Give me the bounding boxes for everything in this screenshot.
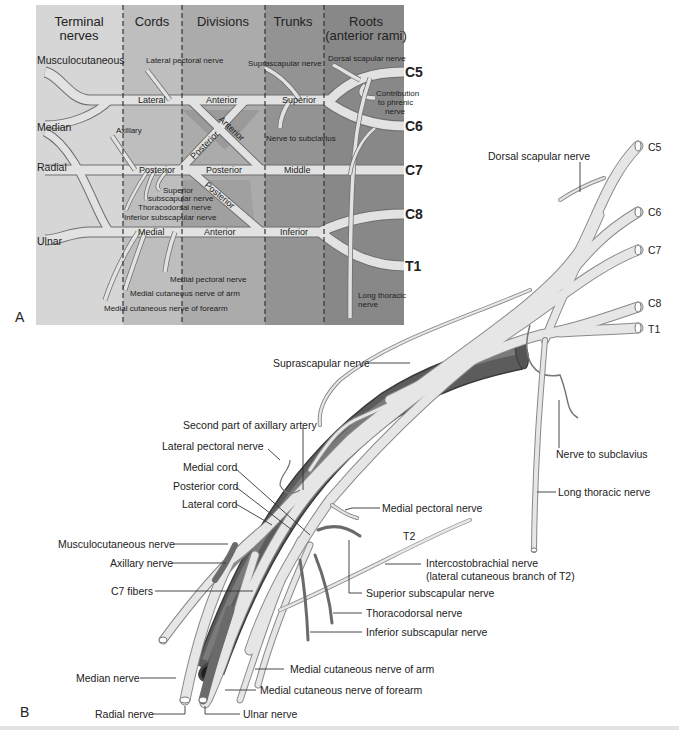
label-b-t2: T2 [403, 530, 415, 542]
label-b-c7-fibers: C7 fibers [111, 585, 153, 597]
label-root-c8: C8 [405, 206, 423, 222]
label-b-nerve-to-subclavius: Nerve to subclavius [556, 448, 648, 460]
label-root-c5: C5 [405, 64, 423, 80]
label-phrenic-2: to phrenic [378, 98, 413, 107]
label-medial-pectoral: Medial pectoral nerve [170, 275, 247, 284]
label-ulnar: Ulnar [37, 235, 63, 247]
column-header-divisions: Divisions [197, 14, 250, 29]
label-medial-cutaneous-arm: Medial cutaneous nerve of arm [130, 289, 240, 298]
label-b-medial-cord: Medial cord [183, 461, 237, 473]
label-b-thoracodorsal: Thoracodorsal nerve [366, 607, 462, 619]
label-b-medial-cutaneous-forearm: Medial cutaneous nerve of forearm [260, 684, 423, 696]
label-lateral-pectoral: Lateral pectoral nerve [146, 56, 224, 65]
label-b-medial-pectoral: Medial pectoral nerve [382, 502, 483, 514]
panel-b-letter: B [20, 704, 29, 720]
label-long-thoracic-2: nerve [358, 300, 379, 309]
label-b-inferior-subscapular: Inferior subscapular nerve [366, 626, 488, 638]
label-root-t1: T1 [405, 258, 422, 274]
label-b-lateral-pectoral: Lateral pectoral nerve [162, 440, 264, 452]
label-b-long-thoracic: Long thoracic nerve [558, 486, 650, 498]
label-posterior-division-mid: Posterior [206, 165, 242, 175]
label-radial: Radial [37, 161, 67, 173]
label-b-superior-subscapular: Superior subscapular nerve [366, 587, 495, 599]
label-b-axillary: Axillary nerve [110, 557, 173, 569]
label-suprascapular: Suprascapular nerve [248, 59, 322, 68]
superior-subscapular-nerve-shape [318, 527, 360, 536]
label-lateral-cord: Lateral [138, 95, 166, 105]
label-anterior-division-bottom: Anterior [204, 227, 236, 237]
label-dorsal-scapular: Dorsal scapular nerve [328, 54, 406, 63]
panel-a-letter: A [15, 309, 25, 325]
label-root-c6: C6 [405, 118, 423, 134]
column-header-terminal-line1: Terminal [54, 14, 103, 29]
panel-a-schematic: Terminal nerves Cords Divisions Trunks R… [15, 5, 423, 325]
label-b-median: Median nerve [76, 672, 140, 684]
label-b-root-c5: C5 [648, 141, 662, 153]
label-b-intercostobrachial-2: (lateral cutaneous branch of T2) [426, 570, 575, 582]
brachial-plexus-figure: Terminal nerves Cords Divisions Trunks R… [0, 0, 679, 739]
label-b-root-c7: C7 [648, 244, 662, 256]
label-b-second-part-axillary-artery: Second part of axillary artery [183, 419, 317, 431]
label-root-c7: C7 [405, 162, 423, 178]
label-b-root-c8: C8 [648, 297, 662, 309]
label-b-intercostobrachial-1: Intercostobrachial nerve [426, 557, 538, 569]
column-header-terminal-line2: nerves [59, 28, 99, 43]
label-b-lateral-cord: Lateral cord [182, 498, 238, 510]
label-medial-cutaneous-forearm: Medial cutaneous nerve of forearm [104, 304, 228, 313]
label-medial-cord: Medial [138, 227, 165, 237]
label-musculocutaneous: Musculocutaneous [37, 54, 125, 66]
label-superior-subscapular-2: subscapular nerve [148, 194, 214, 203]
label-phrenic-3: nerve [385, 107, 406, 116]
label-superior-trunk: Superior [282, 95, 316, 105]
label-phrenic-1: Contribution [376, 89, 419, 98]
label-inferior-trunk: Inferior [280, 227, 308, 237]
label-nerve-to-subclavius: Nerve to subclavius [266, 134, 336, 143]
label-inferior-subscapular: Inferior subscapular nerve [124, 213, 217, 222]
label-b-root-c6: C6 [648, 206, 662, 218]
label-axillary: Axillary [116, 126, 142, 135]
label-middle-trunk: Middle [284, 165, 311, 175]
label-b-suprascapular: Suprascapular nerve [273, 357, 370, 369]
t1-root [560, 328, 638, 332]
label-b-posterior-cord: Posterior cord [173, 480, 239, 492]
column-header-cords: Cords [135, 14, 170, 29]
label-b-ulnar: Ulnar nerve [243, 708, 297, 720]
label-b-dorsal-scapular: Dorsal scapular nerve [488, 150, 590, 162]
label-posterior-cord: Posterior [139, 165, 175, 175]
label-b-medial-cutaneous-arm: Medial cutaneous nerve of arm [290, 663, 434, 675]
label-b-musculocutaneous: Musculocutaneous nerve [58, 538, 175, 550]
bottom-rule [0, 726, 679, 730]
label-anterior-division-top: Anterior [206, 95, 238, 105]
label-long-thoracic-1: Long thoracic [358, 291, 406, 300]
label-b-root-t1: T1 [648, 323, 660, 335]
column-header-trunks: Trunks [273, 14, 313, 29]
label-median: Median [37, 121, 72, 133]
column-header-roots-line1: Roots [349, 14, 383, 29]
label-thoracodorsal: Thoracodorsal nerve [138, 203, 212, 212]
column-header-roots-line2: (anterior rami) [325, 28, 407, 43]
label-b-radial: Radial nerve [95, 708, 154, 720]
